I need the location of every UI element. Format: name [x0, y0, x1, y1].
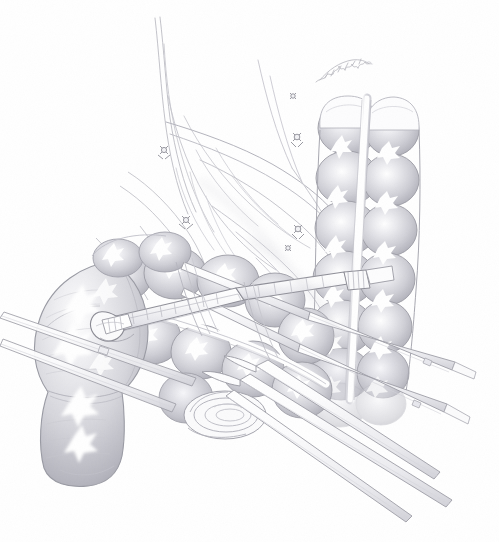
surgical-illustration-figure: Laparoscopic colectomy — linear stapler …	[0, 0, 499, 542]
illustration-canvas	[0, 0, 499, 542]
pencil-grain-overlay	[0, 0, 499, 542]
